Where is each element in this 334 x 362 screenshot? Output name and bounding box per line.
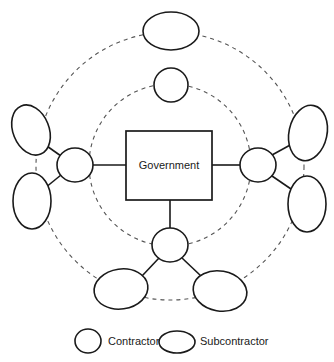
legend-subcontractor-label: Subcontractor	[200, 335, 269, 347]
subcontractor-node-left-lower[interactable]	[13, 173, 51, 229]
subcontractor-node-right-upper[interactable]	[284, 102, 333, 165]
link-contractor-bottom-to-sub-right	[182, 258, 201, 276]
network-diagram: Government Contractor Subcontractor	[0, 0, 334, 362]
subcontractor-node-bottom-left[interactable]	[91, 265, 150, 312]
legend-contractor-icon	[75, 329, 101, 353]
legend-contractor-label: Contractor	[108, 335, 160, 347]
diagram-canvas: Government Contractor Subcontractor	[0, 0, 334, 362]
legend: Contractor Subcontractor	[75, 329, 269, 353]
subcontractor-node-right-lower[interactable]	[288, 176, 326, 232]
contractor-node-top[interactable]	[154, 68, 188, 102]
subcontractor-node-top[interactable]	[143, 12, 199, 50]
government-label: Government	[139, 159, 200, 171]
government-node[interactable]: Government	[126, 131, 212, 200]
contractor-node-bottom[interactable]	[152, 228, 188, 262]
contractor-node-left[interactable]	[57, 148, 93, 182]
link-contractor-bottom-to-sub-left	[142, 258, 159, 276]
link-contractor-right-to-sub-lower	[272, 176, 291, 189]
legend-subcontractor-icon	[159, 331, 195, 353]
contractor-node-right[interactable]	[240, 148, 276, 182]
